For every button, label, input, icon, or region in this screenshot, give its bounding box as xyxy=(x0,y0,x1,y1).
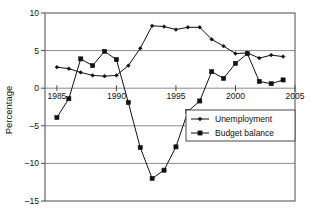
legend-marker-square xyxy=(198,131,202,135)
data-point xyxy=(269,82,273,86)
x-tick-label-1985: 1985 xyxy=(47,91,66,101)
y-tick-label--10: –10 xyxy=(25,158,39,168)
data-point xyxy=(102,49,106,53)
legend-label: Budget balance xyxy=(215,128,274,138)
data-point xyxy=(150,176,154,180)
svg-text:Percentage: Percentage xyxy=(3,86,14,135)
y-tick-label-0: 0 xyxy=(34,83,39,93)
data-point xyxy=(162,168,166,172)
data-point xyxy=(67,97,71,101)
data-point xyxy=(198,99,202,103)
data-point xyxy=(126,100,130,104)
data-point xyxy=(210,70,214,74)
data-point xyxy=(138,146,142,150)
data-point xyxy=(114,58,118,62)
plot-background xyxy=(45,13,295,201)
data-point xyxy=(91,64,95,68)
data-point xyxy=(245,52,249,56)
y-tick-label--15: –15 xyxy=(25,196,39,206)
data-point xyxy=(233,61,237,65)
y-tick-label-5: 5 xyxy=(34,46,39,56)
data-point xyxy=(174,145,178,149)
y-tick-label--5: –5 xyxy=(30,121,40,131)
x-tick-label-2000: 2000 xyxy=(226,91,245,101)
line-chart: –15–10–50510 19851990199520002005 Percen… xyxy=(0,0,312,214)
chart-container: –15–10–50510 19851990199520002005 Percen… xyxy=(0,0,312,214)
data-point xyxy=(79,57,83,61)
y-tick-label-10: 10 xyxy=(30,8,40,18)
y-axis-title: Percentage xyxy=(3,86,14,135)
data-point xyxy=(281,78,285,82)
y-axis-ticks xyxy=(41,13,45,201)
x-tick-label-1995: 1995 xyxy=(166,91,185,101)
data-point xyxy=(55,115,59,119)
x-tick-label-2005: 2005 xyxy=(286,91,305,101)
legend-label: Unemployment xyxy=(215,114,273,124)
y-tick-labels: –15–10–50510 xyxy=(25,8,39,206)
x-tick-label-1990: 1990 xyxy=(107,91,126,101)
data-point xyxy=(221,76,225,80)
data-point xyxy=(257,79,261,83)
chart-legend: UnemploymentBudget balance xyxy=(186,110,295,141)
